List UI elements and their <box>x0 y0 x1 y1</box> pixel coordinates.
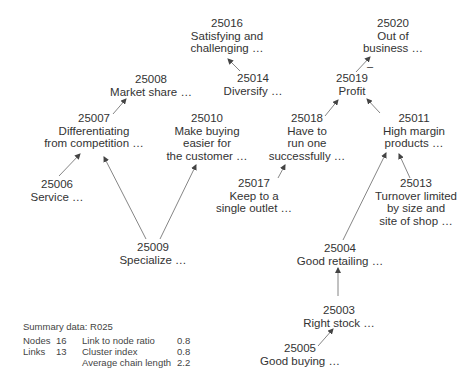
summary-row: Links 13 Cluster index 0.8 <box>23 346 190 357</box>
edge-sign-negative: – <box>367 60 374 72</box>
node-label: Service … <box>30 191 83 204</box>
node-id: 25018 <box>269 112 346 125</box>
summary-row: Average chain length 2.2 <box>23 357 190 368</box>
node-label: Right stock … <box>303 317 375 330</box>
summary-key: Link to node ratio <box>82 335 177 346</box>
node-label: challenging … <box>191 42 264 55</box>
node-label: Differentiating <box>44 125 144 138</box>
edge-25013-25011 <box>399 154 410 178</box>
node-id: 25014 <box>224 72 283 85</box>
node-25013[interactable]: 25013 Turnover limited by size and site … <box>375 177 457 227</box>
summary-value: 0.8 <box>177 346 190 357</box>
edge-25006-25007 <box>59 154 80 176</box>
summary-panel: Summary data: R025 Nodes 16 Link to node… <box>23 321 190 368</box>
node-25010[interactable]: 25010 Make buying easier for the custome… <box>166 112 247 162</box>
summary-value: 0.8 <box>177 335 190 346</box>
node-label: successfully … <box>269 150 346 163</box>
node-25019[interactable]: 25019 Profit <box>336 72 368 97</box>
node-label: Keep to a <box>216 190 292 203</box>
node-25011[interactable]: 25011 High margin products … <box>383 112 445 150</box>
node-label: Good buying … <box>260 355 340 368</box>
summary-key: Links <box>23 346 56 357</box>
node-25004[interactable]: 25004 Good retailing … <box>297 242 383 267</box>
node-label: Out of <box>363 30 423 43</box>
node-label: single outlet … <box>216 202 292 215</box>
node-label: by size and <box>375 202 457 215</box>
node-25005[interactable]: 25005 Good buying … <box>260 342 340 367</box>
summary-table: Nodes 16 Link to node ratio 0.8 Links 13… <box>23 335 190 368</box>
node-25018[interactable]: 25018 Have to run one successfully … <box>269 112 346 162</box>
node-label: Diversify … <box>224 85 283 98</box>
summary-row: Nodes 16 Link to node ratio 0.8 <box>23 335 190 346</box>
node-25007[interactable]: 25007 Differentiating from competition … <box>44 112 144 150</box>
summary-value: 16 <box>56 335 82 346</box>
node-label: Satisfying and <box>191 30 264 43</box>
summary-key: Cluster index <box>82 346 177 357</box>
summary-value: 2.2 <box>177 357 190 368</box>
node-label: Make buying <box>166 125 247 138</box>
node-25006[interactable]: 25006 Service … <box>30 178 83 203</box>
node-label: the customer … <box>166 150 247 163</box>
node-id: 25008 <box>110 73 192 86</box>
edge-25014-25016 <box>228 59 240 71</box>
node-25017[interactable]: 25017 Keep to a single outlet … <box>216 177 292 215</box>
node-label: easier for <box>166 137 247 150</box>
node-label: Have to <box>269 125 346 138</box>
node-label: Market share … <box>110 86 192 99</box>
node-label: business … <box>363 42 423 55</box>
edge-25009-25010 <box>160 165 196 239</box>
node-25008[interactable]: 25008 Market share … <box>110 73 192 98</box>
node-25003[interactable]: 25003 Right stock … <box>303 304 375 329</box>
summary-key <box>23 357 56 368</box>
node-id: 25010 <box>166 112 247 125</box>
node-25016[interactable]: 25016 Satisfying and challenging … <box>191 17 264 55</box>
node-id: 25006 <box>30 178 83 191</box>
cognitive-map-diagram: – 25016 Satisfying and challenging … 250… <box>0 0 471 383</box>
summary-key: Nodes <box>23 335 56 346</box>
summary-key: Average chain length <box>82 357 177 368</box>
summary-value <box>56 357 82 368</box>
node-id: 25011 <box>383 112 445 125</box>
node-label: Profit <box>336 85 368 98</box>
node-label: run one <box>269 137 346 150</box>
node-id: 25005 <box>260 342 340 355</box>
node-25014[interactable]: 25014 Diversify … <box>224 72 283 97</box>
node-25009[interactable]: 25009 Specialize … <box>119 241 186 266</box>
edge-25011-25019 <box>367 99 380 113</box>
node-id: 25017 <box>216 177 292 190</box>
node-id: 25003 <box>303 304 375 317</box>
node-label: Turnover limited <box>375 190 457 203</box>
node-label: products … <box>383 137 445 150</box>
node-id: 25019 <box>336 72 368 85</box>
node-id: 25009 <box>119 241 186 254</box>
node-id: 25013 <box>375 177 457 190</box>
node-25020[interactable]: 25020 Out of business … <box>363 17 423 55</box>
node-id: 25020 <box>363 17 423 30</box>
summary-value: 13 <box>56 346 82 357</box>
node-id: 25004 <box>297 242 383 255</box>
node-label: from competition … <box>44 137 144 150</box>
node-label: Good retailing … <box>297 255 383 268</box>
node-label: High margin <box>383 125 445 138</box>
node-label: site of shop … <box>375 215 457 228</box>
summary-title: Summary data: R025 <box>23 321 190 332</box>
node-id: 25016 <box>191 17 264 30</box>
edge-25009-25007 <box>104 157 146 239</box>
node-label: Specialize … <box>119 254 186 267</box>
node-id: 25007 <box>44 112 144 125</box>
